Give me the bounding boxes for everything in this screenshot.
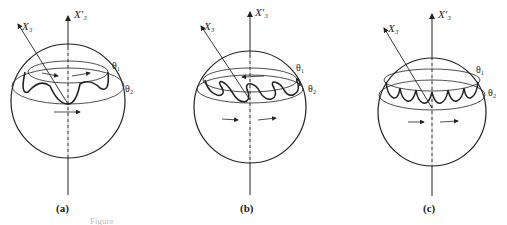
theta2-label-c: θ₂ bbox=[488, 87, 496, 98]
theta2-label-b: θ₂ bbox=[308, 83, 316, 94]
panel-c bbox=[378, 14, 486, 196]
theta1-label-c: θ₁ bbox=[476, 64, 484, 75]
panel-a bbox=[11, 16, 125, 195]
theta1-label-a: θ₁ bbox=[112, 60, 120, 71]
theta1-label-b: θ₁ bbox=[296, 62, 304, 73]
nutation-diagram: X₃ X′₃ θ₁ θ₂ (a) X₃ X′₃ θ₁ θ₂ (b) X₃ X′₃… bbox=[0, 0, 507, 225]
theta2-label-a: θ₂ bbox=[125, 83, 133, 94]
axis-body-label-a: X₃ bbox=[21, 20, 33, 32]
figure-caption: Figure bbox=[90, 216, 114, 225]
axis-fixed-label-c: X′₃ bbox=[437, 8, 451, 20]
panel-label-a: (a) bbox=[56, 202, 69, 215]
panel-label-c: (c) bbox=[423, 202, 436, 215]
axis-fixed-label-b: X′₃ bbox=[254, 6, 268, 18]
panel-b bbox=[194, 12, 306, 195]
axis-body-label-b: X₃ bbox=[203, 20, 215, 32]
axis-body-label-c: X₃ bbox=[387, 22, 399, 34]
axis-fixed-label-a: X′₃ bbox=[73, 8, 87, 20]
panel-label-b: (b) bbox=[240, 202, 254, 215]
